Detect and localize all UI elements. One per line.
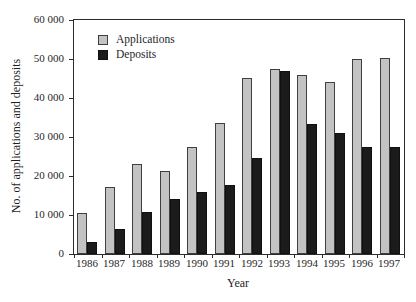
x-tick-label: 1997 <box>374 257 404 269</box>
bar-applications-1990 <box>187 147 197 254</box>
bar-applications-1992 <box>242 78 252 254</box>
legend-swatch-icon <box>98 50 108 60</box>
bar-deposits-1987 <box>115 229 125 254</box>
bar-deposits-1991 <box>225 185 235 254</box>
bar-deposits-1994 <box>307 124 317 254</box>
x-tick-label: 1993 <box>264 257 294 269</box>
x-tick-label: 1986 <box>72 257 102 269</box>
x-tick-label: 1992 <box>237 257 267 269</box>
bar-applications-1993 <box>270 69 280 254</box>
x-axis-title: Year <box>73 276 403 291</box>
x-tick-label: 1988 <box>127 257 157 269</box>
bar-applications-1991 <box>215 123 225 254</box>
bar-deposits-1986 <box>87 242 97 254</box>
bar-deposits-1989 <box>170 199 180 254</box>
y-tick-label: 10 000 <box>0 208 64 220</box>
x-tick-mark <box>404 254 405 258</box>
bar-deposits-1995 <box>335 133 345 254</box>
y-tick-mark <box>69 215 74 216</box>
bar-applications-1994 <box>297 75 307 254</box>
bar-applications-1996 <box>352 59 362 254</box>
legend-entry-deposits: Deposits <box>98 48 175 61</box>
legend-label: Applications <box>116 33 175 46</box>
x-tick-label: 1987 <box>99 257 129 269</box>
legend-entry-applications: Applications <box>98 33 175 46</box>
x-tick-label: 1994 <box>292 257 322 269</box>
plot-area: ApplicationsDeposits <box>73 19 405 255</box>
bar-applications-1995 <box>325 82 335 254</box>
bar-deposits-1997 <box>390 147 400 254</box>
bar-applications-1987 <box>105 187 115 254</box>
bar-deposits-1988 <box>142 212 152 254</box>
bar-deposits-1993 <box>280 71 290 254</box>
x-tick-label: 1991 <box>209 257 239 269</box>
bar-applications-1997 <box>380 58 390 254</box>
legend: ApplicationsDeposits <box>98 33 175 63</box>
y-tick-mark <box>69 176 74 177</box>
y-tick-label: 40 000 <box>0 91 64 103</box>
bar-chart-figure: No. of applications and deposits Applica… <box>0 0 416 302</box>
y-tick-mark <box>69 20 74 21</box>
x-tick-label: 1995 <box>319 257 349 269</box>
x-tick-label: 1996 <box>347 257 377 269</box>
y-tick-mark <box>69 98 74 99</box>
bar-applications-1988 <box>132 164 142 254</box>
y-tick-mark <box>69 137 74 138</box>
bar-deposits-1990 <box>197 192 207 254</box>
y-tick-label: 0 <box>0 247 64 259</box>
y-tick-label: 20 000 <box>0 169 64 181</box>
bar-applications-1986 <box>77 213 87 254</box>
y-tick-label: 60 000 <box>0 13 64 25</box>
y-tick-label: 50 000 <box>0 52 64 64</box>
legend-label: Deposits <box>116 48 156 61</box>
bar-applications-1989 <box>160 171 170 254</box>
bar-deposits-1992 <box>252 158 262 254</box>
x-tick-label: 1990 <box>182 257 212 269</box>
x-tick-label: 1989 <box>154 257 184 269</box>
y-tick-label: 30 000 <box>0 130 64 142</box>
legend-swatch-icon <box>98 35 108 45</box>
bar-deposits-1996 <box>362 147 372 254</box>
y-tick-mark <box>69 59 74 60</box>
